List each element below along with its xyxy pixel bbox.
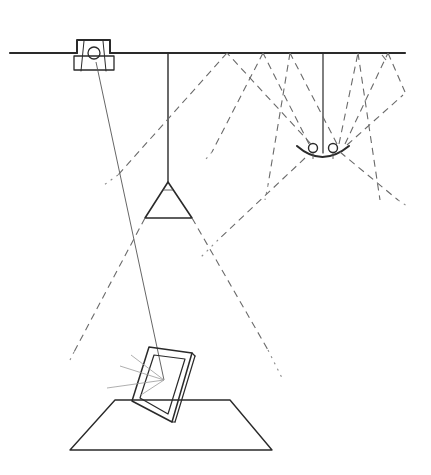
pendant-lamp-icon xyxy=(145,53,192,218)
picture-frame-icon xyxy=(132,347,195,422)
ceiling-bounce-beams xyxy=(104,53,407,258)
pendant-beam xyxy=(70,218,283,380)
spotlight-icon xyxy=(74,40,114,71)
spot-beam xyxy=(96,62,164,380)
twin-fixture-icon xyxy=(297,53,349,159)
table-surface xyxy=(70,400,272,450)
lighting-diagram xyxy=(0,0,431,475)
